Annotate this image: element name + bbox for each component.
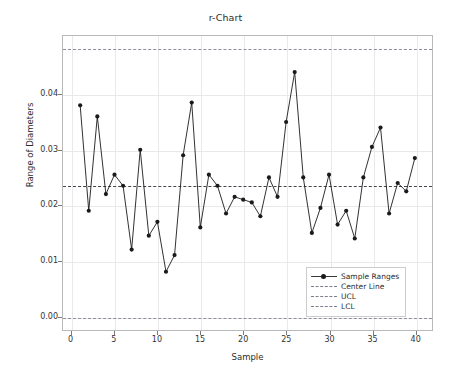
x-tick-mark [243, 331, 244, 335]
data-point [147, 234, 151, 238]
chart-figure: r-Chart Range of Diameters Sample 0.000.… [0, 0, 451, 388]
data-point [241, 198, 245, 202]
x-tick-label: 0 [56, 336, 86, 344]
legend-item: Sample Ranges [311, 272, 399, 282]
chart-legend: Sample RangesCenter LineUCLLCL [306, 267, 406, 317]
legend-line-marker-icon [311, 272, 337, 282]
data-point [275, 195, 279, 199]
data-point [361, 175, 365, 179]
y-tick-label: 0.03 [34, 146, 58, 154]
x-tick-mark [157, 331, 158, 335]
data-point [413, 156, 417, 160]
data-point [318, 206, 322, 210]
data-point [164, 270, 168, 274]
x-tick-mark [373, 331, 374, 335]
data-point [310, 231, 314, 235]
legend-label: LCL [341, 302, 355, 312]
data-point [172, 253, 176, 257]
data-point [95, 114, 99, 118]
x-tick-mark [416, 331, 417, 335]
x-tick-mark [330, 331, 331, 335]
x-tick-mark [71, 331, 72, 335]
x-axis-label: Sample [62, 352, 433, 362]
data-point [224, 211, 228, 215]
data-point [327, 173, 331, 177]
data-point [258, 214, 262, 218]
legend-label: Center Line [341, 282, 384, 292]
data-point [396, 181, 400, 185]
data-point [284, 120, 288, 124]
legend-dashed-line-icon [311, 282, 337, 292]
y-tick-label: 0.02 [34, 201, 58, 209]
data-point [250, 200, 254, 204]
data-point [78, 103, 82, 107]
x-tick-label: 10 [142, 336, 172, 344]
data-point [130, 247, 134, 251]
y-tick-label: 0.01 [34, 257, 58, 265]
data-point [344, 209, 348, 213]
legend-label: Sample Ranges [341, 272, 399, 282]
data-point [370, 145, 374, 149]
y-tick-label: 0.00 [34, 313, 58, 321]
chart-title: r-Chart [0, 12, 451, 23]
data-point [207, 173, 211, 177]
legend-dashed-line-icon [311, 302, 337, 312]
data-point [404, 189, 408, 193]
data-point [378, 125, 382, 129]
legend-item: UCL [311, 292, 399, 302]
data-point [138, 148, 142, 152]
legend-item: LCL [311, 302, 399, 312]
x-tick-mark [200, 331, 201, 335]
y-tick-label: 0.04 [34, 90, 58, 98]
data-point [387, 211, 391, 215]
data-point [121, 184, 125, 188]
series-line [80, 72, 415, 272]
legend-dashed-line-icon [311, 292, 337, 302]
data-point [190, 100, 194, 104]
x-tick-label: 40 [401, 336, 431, 344]
data-point [233, 195, 237, 199]
x-tick-label: 30 [315, 336, 345, 344]
data-point [336, 223, 340, 227]
x-tick-label: 15 [185, 336, 215, 344]
x-tick-label: 35 [358, 336, 388, 344]
x-tick-label: 25 [271, 336, 301, 344]
data-point [198, 225, 202, 229]
data-point [353, 236, 357, 240]
data-point [112, 173, 116, 177]
legend-item: Center Line [311, 282, 399, 292]
data-point [215, 184, 219, 188]
data-point [301, 175, 305, 179]
x-tick-mark [114, 331, 115, 335]
data-point [104, 192, 108, 196]
x-tick-label: 5 [99, 336, 129, 344]
data-point [155, 220, 159, 224]
data-point [181, 153, 185, 157]
legend-label: UCL [341, 292, 356, 302]
data-point [87, 209, 91, 213]
data-point [267, 175, 271, 179]
x-tick-mark [286, 331, 287, 335]
x-tick-label: 20 [228, 336, 258, 344]
data-point [293, 70, 297, 74]
